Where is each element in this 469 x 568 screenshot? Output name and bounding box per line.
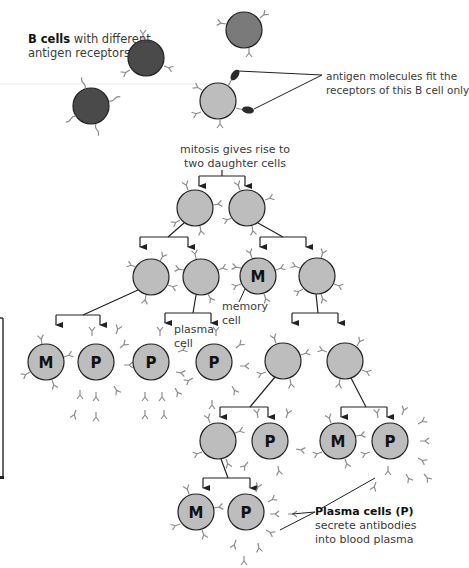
antigen-label: antigen molecules fit the receptors of t…	[326, 69, 469, 97]
cell-gen3-e	[257, 334, 311, 389]
memory-cell-gen4-c: M	[313, 414, 366, 469]
memory-cell-gen3: M	[21, 335, 74, 390]
b-cell-selected	[192, 79, 244, 128]
branch-arrows-gen3	[56, 290, 338, 325]
b-cells-label-bold: B cells	[28, 32, 70, 46]
plasma-letter: P	[265, 433, 276, 451]
plasma-cell-gen4-d: P	[361, 406, 433, 492]
memory-cell-gen5: M	[171, 485, 224, 540]
cell-gen2-a	[127, 252, 178, 305]
plasma-cells-label: Plasma cells (P) secrete antibodies into…	[315, 505, 417, 547]
antigen-label-line2: receptors of this B cell only	[326, 84, 469, 96]
plasma-cell-label: plasma cell	[174, 323, 214, 351]
mitosis-arrows	[199, 170, 245, 186]
memory-letter: M	[331, 433, 346, 451]
b-cell-mid	[217, 10, 269, 57]
plasma-cell-label-line1: plasma	[174, 323, 214, 336]
memory-cell-label-line1: memory	[222, 300, 268, 313]
mitosis-label-line2: two daughter cells	[184, 157, 286, 170]
plasma-cell-gen5: P	[228, 483, 297, 565]
cell-gen4-a	[193, 414, 245, 469]
cell-gen3-f	[318, 337, 372, 389]
memory-letter: M	[251, 268, 266, 286]
mitosis-label-line1: mitosis gives rise to	[180, 143, 290, 156]
branch-arrows-gen4	[220, 377, 387, 417]
plasma-cells-label-line3: into blood plasma	[315, 533, 414, 546]
cell-gen2-d	[291, 249, 344, 304]
memory-cell-label-line2: cell	[222, 314, 241, 327]
b-cells-label: B cells with different antigen receptors	[28, 32, 151, 60]
plasma-letter: P	[146, 354, 157, 372]
left-bracket-fragment	[0, 318, 4, 479]
plasma-cell-gen3-a: P	[70, 325, 133, 421]
memory-cell-gen2: M	[232, 249, 286, 304]
b-cell-dark-2	[65, 77, 121, 136]
memory-letter: M	[39, 354, 54, 372]
daughter-cell-right	[223, 181, 275, 236]
plasma-letter: P	[209, 354, 220, 372]
plasma-letter: P	[241, 504, 252, 522]
antigen-pointer-lines	[238, 71, 322, 109]
plasma-cells-label-line2: secrete antibodies	[315, 519, 417, 532]
cell-gen2-b	[175, 250, 228, 304]
b-cells-label-rest: with different	[70, 32, 151, 46]
mitosis-label: mitosis gives rise to two daughter cells	[180, 143, 290, 171]
plasma-letter: P	[385, 433, 396, 451]
plasma-letter: P	[91, 354, 102, 372]
memory-letter: M	[189, 504, 204, 522]
antigen-label-line1: antigen molecules fit the	[326, 70, 457, 82]
plasma-cell-gen4-b: P	[240, 409, 305, 476]
plasma-cell-label-line2: cell	[174, 337, 193, 350]
b-cells-label-line2: antigen receptors	[28, 46, 130, 60]
branch-arrows-gen2	[140, 223, 306, 247]
plasma-cells-label-bold: Plasma cells (P)	[315, 505, 414, 518]
branch-arrows-gen5	[203, 459, 250, 488]
memory-cell-label: memory cell	[222, 300, 268, 328]
